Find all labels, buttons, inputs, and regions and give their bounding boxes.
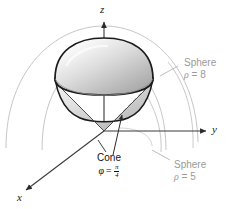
cone-name: Cone (81, 152, 137, 164)
sphere-outer-equation: ρ = 8 (184, 69, 216, 81)
fraction-numerator: π (114, 164, 120, 171)
z-axis-label: z (100, 4, 104, 15)
spherical-coordinates-figure: z y x Sphere ρ = 8 Sphere ρ = 5 Cone φ =… (0, 0, 231, 209)
rho-symbol-outer: ρ (184, 69, 189, 80)
y-axis-label: y (212, 124, 217, 135)
fraction-denominator: 4 (114, 171, 120, 179)
inner-sphere-arc-right (148, 98, 161, 152)
cone-equation: φ = π 4 (99, 164, 120, 179)
cone-label-leader (98, 140, 106, 152)
equals-cone: = (105, 165, 112, 177)
sphere-outer-label: Sphere ρ = 8 (184, 57, 216, 80)
rho-symbol-inner: ρ (174, 171, 179, 182)
phi-symbol: φ (99, 165, 105, 177)
pi-over-four-fraction: π 4 (114, 164, 120, 179)
equals-outer: = (192, 69, 198, 80)
sphere-inner-label: Sphere ρ = 5 (174, 159, 206, 182)
cone-label: Cone φ = π 4 (81, 152, 137, 179)
sphere-outer-name: Sphere (184, 57, 216, 69)
sphere-outer-value: 8 (200, 69, 206, 80)
leader-sphere-outer (160, 66, 178, 76)
equals-inner: = (182, 171, 188, 182)
leader-lines (152, 66, 178, 160)
sphere-inner-equation: ρ = 5 (174, 171, 206, 183)
x-axis-label: x (17, 192, 22, 203)
sphere-inner-value: 5 (190, 171, 196, 182)
sphere-inner-name: Sphere (174, 159, 206, 171)
